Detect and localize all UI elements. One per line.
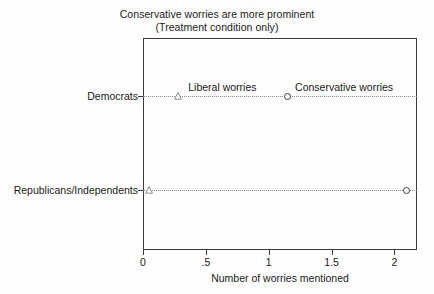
x-axis-tick-label: 1.5	[324, 256, 339, 268]
x-axis-tick-label: 1	[266, 256, 272, 268]
point-annotation-conservative-worries: Conservative worries	[295, 81, 393, 93]
x-axis-tick	[143, 250, 144, 255]
data-row	[143, 190, 417, 191]
x-axis-tick	[206, 250, 207, 255]
x-axis-tick-label: 2	[391, 256, 397, 268]
data-row	[143, 96, 417, 97]
x-axis-tick	[269, 250, 270, 255]
row-connector-line	[143, 190, 417, 191]
x-axis-title: Number of worries mentioned	[143, 272, 417, 284]
x-axis-tick-label: 0	[140, 256, 146, 268]
y-axis-label-republicans-independents: Republicans/Independents	[14, 184, 138, 196]
triangle-marker-icon	[145, 186, 153, 194]
x-axis-tick-label: .5	[201, 256, 210, 268]
row-connector-line	[143, 96, 417, 97]
circle-marker-icon	[403, 187, 410, 194]
plot-area: Liberal worriesConservative worries	[143, 38, 417, 250]
x-axis-tick	[394, 250, 395, 255]
chart-figure: Conservative worries are more prominent …	[0, 0, 434, 294]
y-axis-labels: Democrats Republicans/Independents	[0, 0, 138, 294]
y-axis-label-democrats: Democrats	[87, 90, 138, 102]
triangle-marker-icon	[174, 92, 182, 100]
x-axis-tick	[332, 250, 333, 255]
circle-marker-icon	[284, 93, 291, 100]
point-annotation-liberal-worries: Liberal worries	[188, 81, 256, 93]
